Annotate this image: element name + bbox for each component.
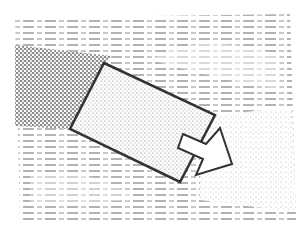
textured-figure (0, 0, 299, 239)
illustration (0, 0, 299, 239)
